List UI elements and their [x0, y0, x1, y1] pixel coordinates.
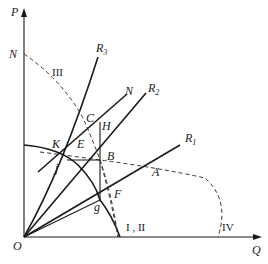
curve-III-label: III: [52, 66, 63, 78]
curve-I-II-label: I , II: [126, 221, 146, 233]
point-C-label: C: [86, 111, 95, 125]
ray-R2: [24, 93, 146, 237]
point-K-label: K: [51, 137, 61, 151]
p-axis-arrow-icon: [21, 8, 27, 17]
point-F-label: F: [113, 187, 122, 201]
p-axis-label: P: [10, 5, 19, 19]
point-B-label: B: [107, 149, 115, 163]
ray-R2-label: R2: [147, 81, 159, 97]
origin-label: O: [13, 239, 22, 253]
n-intercept-label: N: [8, 47, 18, 61]
axes: [21, 8, 262, 240]
point-E-label: E: [76, 137, 85, 151]
line-N-label: N: [124, 84, 134, 98]
point-H-label: H: [101, 119, 112, 133]
q-axis-label: Q: [252, 243, 261, 257]
diagram-canvas: P Q O N III I , II IV R3 R2 R1 N C H E K…: [0, 0, 268, 264]
point-A-label: A: [151, 165, 160, 179]
ray-O-g: [24, 200, 100, 237]
point-j-label: j: [53, 161, 59, 175]
point-g-label: g: [94, 200, 100, 214]
curve-IV-label: IV: [222, 221, 234, 233]
ray-R3-label: R3: [95, 41, 107, 57]
curve-I-II: [24, 145, 120, 237]
q-axis-arrow-icon: [253, 234, 262, 240]
ray-R1-label: R1: [184, 131, 196, 147]
